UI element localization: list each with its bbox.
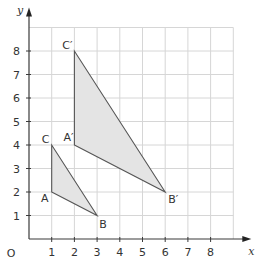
x-axis-label: x [248,245,255,258]
y-tick-label: 4 [13,139,20,152]
x-tick-label: 3 [94,246,101,259]
y-tick-label: 1 [13,210,20,223]
x-tick-label: 8 [207,246,214,259]
y-tick-label: 7 [13,69,20,82]
vertex-label: C [42,133,50,146]
y-tick-label: 5 [13,116,20,129]
y-tick-label: 6 [13,92,20,105]
coordinate-grid-chart: 1234567812345678OxyABCA′B′C′ [0,0,257,266]
x-tick-label: 7 [184,246,191,259]
y-tick-label: 3 [13,163,20,176]
y-tick-label: 8 [13,45,20,58]
vertex-label: C′ [62,39,73,52]
x-tick-label: 1 [48,246,55,259]
x-axis-arrow-icon [242,236,251,242]
x-tick-label: 5 [139,246,146,259]
origin-label: O [7,247,16,260]
vertex-label: B′ [168,193,179,206]
vertex-label: A [41,192,49,205]
x-tick-label: 2 [71,246,78,259]
x-tick-label: 6 [162,246,169,259]
vertex-label: B [99,218,107,231]
y-tick-label: 2 [13,186,20,199]
x-tick-label: 4 [116,246,123,259]
y-axis-arrow-icon [26,8,32,17]
vertex-label: A′ [63,131,74,144]
y-axis-label: y [16,4,24,17]
